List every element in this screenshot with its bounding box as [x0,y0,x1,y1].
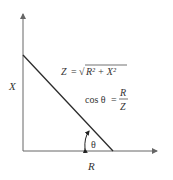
cosine-equation: cos θ = R Z [85,87,128,112]
svg-text:R: R [119,87,126,98]
svg-text:=: = [71,66,77,77]
svg-text:√: √ [79,66,85,77]
impedance-equation: Z = √ R² + X² [61,65,127,77]
svg-text:Z: Z [120,101,126,112]
angle-arc-icon [85,131,89,149]
svg-text:cos θ: cos θ [85,94,106,105]
svg-text:=: = [111,94,117,105]
angle-label: θ [91,139,96,150]
impedance-diagram: θ X R Z = √ R² + X² cos θ = R Z [0,0,173,180]
svg-text:R² + X²: R² + X² [85,66,117,77]
svg-text:Z: Z [61,66,67,77]
r-axis-label: R [87,160,95,172]
x-axis-label: X [8,80,17,92]
